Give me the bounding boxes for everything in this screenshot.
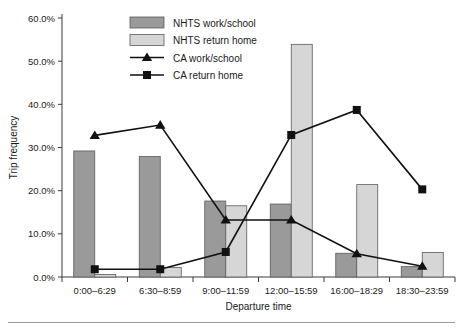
y-axis-tick-label: 10.0% — [28, 228, 55, 239]
y-axis-tick-label: 40.0% — [28, 99, 55, 110]
x-axis-tick-label: 18:30–23:59 — [396, 285, 449, 296]
x-axis-tick-label: 9:00–11:59 — [202, 285, 249, 296]
x-axis-tick-label: 16:00–18:29 — [330, 285, 383, 296]
y-axis-tick-label: 50.0% — [28, 56, 55, 67]
legend-label-3: CA return home — [173, 70, 243, 81]
marker-square-1-1 — [156, 265, 164, 273]
legend-label-0: NHTS work/school — [173, 18, 256, 29]
marker-triangle-0-1 — [155, 120, 165, 129]
y-axis-tick-label: 30.0% — [28, 142, 55, 153]
bar-0-1 — [139, 157, 160, 277]
bar-0-3 — [270, 204, 291, 277]
bar-1-0 — [95, 274, 116, 277]
bar-1-5 — [422, 252, 443, 277]
x-axis-tick-label: 0:00–6:29 — [74, 285, 116, 296]
footer-divider — [8, 322, 455, 323]
y-axis-title: Trip frequency — [8, 116, 19, 180]
marker-square-1-4 — [353, 106, 361, 114]
y-axis-tick-label: 20.0% — [28, 185, 55, 196]
bar-1-2 — [226, 206, 247, 277]
legend-marker-square-3 — [143, 71, 151, 79]
grouped-bar-line-chart: 0.0%10.0%20.0%30.0%40.0%50.0%60.0%Trip f… — [0, 0, 463, 331]
bar-1-4 — [357, 185, 378, 277]
marker-square-1-5 — [418, 185, 426, 193]
y-axis-tick-label: 60.0% — [28, 13, 55, 24]
marker-square-1-3 — [287, 131, 295, 139]
marker-square-1-2 — [222, 248, 230, 256]
legend-label-1: NHTS return home — [173, 35, 257, 46]
chart-figure: 0.0%10.0%20.0%30.0%40.0%50.0%60.0%Trip f… — [0, 0, 463, 331]
x-axis-tick-label: 6:30–8:59 — [139, 285, 181, 296]
x-axis-tick-label: 12:00–15:59 — [265, 285, 318, 296]
x-axis-title: Departure time — [225, 301, 292, 312]
legend-swatch-0 — [130, 17, 164, 28]
marker-square-1-0 — [91, 265, 99, 273]
legend-label-2: CA work/school — [173, 53, 242, 64]
bar-1-3 — [291, 44, 312, 277]
bar-0-0 — [74, 151, 95, 277]
legend-swatch-1 — [130, 35, 164, 46]
bar-0-2 — [205, 201, 226, 277]
y-axis-tick-label: 0.0% — [33, 272, 55, 283]
